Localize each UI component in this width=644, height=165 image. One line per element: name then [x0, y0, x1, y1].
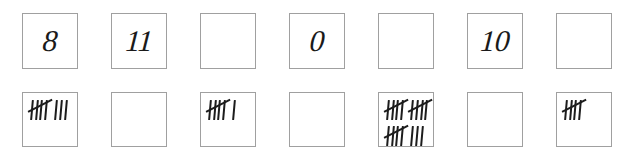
tally-stroke [391, 100, 394, 120]
tally-group-5 [411, 100, 426, 122]
tally-stroke [39, 100, 42, 120]
numeral-box-3[interactable] [200, 13, 256, 69]
tally-stroke [217, 100, 220, 120]
tally-stroke [55, 100, 58, 120]
numeral-box-7[interactable] [556, 13, 612, 69]
numeral-box-6[interactable]: 10 [467, 13, 523, 69]
tally-marks-1 [23, 93, 77, 146]
tally-marks-3 [201, 93, 255, 146]
tally-stroke [573, 100, 576, 120]
tally-stroke [213, 100, 216, 120]
tally-marks-2 [112, 93, 166, 146]
tally-box-2[interactable] [111, 92, 167, 147]
tally-stroke [424, 100, 427, 120]
tally-group-5 [31, 100, 46, 122]
tally-stroke [391, 126, 394, 146]
tally-group-5 [565, 100, 580, 122]
numeral-value-7 [555, 14, 613, 68]
tally-stroke [233, 100, 236, 120]
tally-stroke [222, 100, 225, 120]
tally-stroke [44, 100, 47, 120]
tally-marks-5 [379, 93, 433, 146]
tally-stroke [400, 126, 403, 146]
tally-group-3 [55, 100, 66, 122]
tally-stroke [64, 100, 67, 120]
numeral-box-1[interactable]: 8 [22, 13, 78, 69]
tally-stroke [30, 100, 33, 120]
tally-marks-6 [468, 93, 522, 146]
tally-group-3 [411, 126, 422, 148]
numeral-value-3 [199, 14, 257, 68]
numeral-value-4: 0 [288, 14, 346, 68]
tally-stroke [208, 100, 211, 120]
numeral-value-6: 10 [466, 14, 524, 68]
tally-stroke [386, 100, 389, 120]
tally-stroke [569, 100, 572, 120]
tally-stroke [411, 126, 414, 146]
tally-stroke [564, 100, 567, 120]
tally-stroke [35, 100, 38, 120]
tally-line [565, 100, 580, 122]
tally-stroke [395, 126, 398, 146]
tally-stroke [395, 100, 398, 120]
tally-stroke [420, 126, 423, 146]
tally-stroke [400, 100, 403, 120]
tally-line [387, 100, 427, 122]
tally-marks-7 [557, 93, 611, 146]
numeral-value-5 [377, 14, 435, 68]
tally-box-6[interactable] [467, 92, 523, 147]
tally-stroke [420, 100, 423, 120]
tally-box-4[interactable] [289, 92, 345, 147]
tally-group-5 [387, 100, 402, 122]
numeral-box-2[interactable]: 11 [111, 13, 167, 69]
numeral-box-5[interactable] [378, 13, 434, 69]
tally-group-5 [387, 126, 402, 148]
tally-line [209, 100, 235, 122]
tally-stroke [386, 126, 389, 146]
tally-box-7[interactable] [556, 92, 612, 147]
tally-marks-4 [290, 93, 344, 146]
tally-stroke [411, 100, 414, 120]
tally-box-1[interactable] [22, 92, 78, 147]
numeral-box-4[interactable]: 0 [289, 13, 345, 69]
numeral-value-1: 8 [21, 14, 79, 68]
tally-group-1 [233, 100, 235, 122]
tally-box-5[interactable] [378, 92, 434, 147]
tally-stroke [59, 100, 62, 120]
tally-line [387, 126, 422, 148]
tally-line [31, 100, 66, 122]
worksheet-canvas: 811010 [0, 0, 644, 165]
tally-group-5 [209, 100, 224, 122]
tally-stroke [415, 100, 418, 120]
tally-stroke [578, 100, 581, 120]
numeral-value-2: 11 [110, 14, 168, 68]
tally-box-3[interactable] [200, 92, 256, 147]
tally-stroke [415, 126, 418, 146]
